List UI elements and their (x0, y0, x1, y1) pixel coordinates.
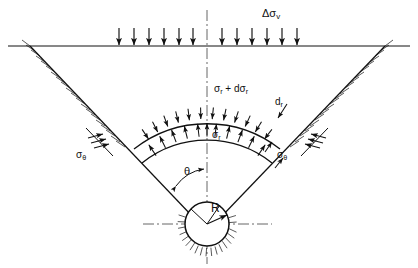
hatching-icon-left (22, 40, 125, 147)
element-thickness-label: dr (275, 97, 283, 108)
surcharge-label: Δσv (262, 8, 280, 21)
diagram-canvas (0, 0, 418, 268)
surcharge-arrow-group (119, 28, 297, 45)
technical-diagram-figure: Δσv σr + dσr σr dr σθ σθ θ R (0, 0, 418, 268)
theta-angle-label: θ (184, 166, 190, 177)
inner-radial-stress-label: σr (212, 130, 221, 141)
radius-label: R (211, 202, 220, 214)
hatching-icon-right (290, 40, 393, 147)
outer-radial-stress-label: σr + dσr (214, 84, 248, 95)
hoop-stress-arrow-right (301, 128, 328, 156)
hoop-stress-label-left: σθ (76, 150, 86, 161)
hoop-stress-label-right: σθ (277, 150, 287, 161)
